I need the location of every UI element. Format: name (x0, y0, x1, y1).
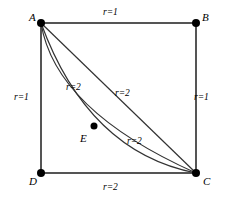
vertex-label-b: B (202, 12, 209, 23)
label-left-side: r=1 (14, 93, 29, 103)
vertex-label-d: D (29, 176, 37, 187)
vertex-label-c: C (203, 176, 210, 187)
geometry-figure: A B C D E r=1 r=1 r=1 r=2 r=2 r=2 r=2 (0, 0, 228, 202)
vertex-dot-b (192, 19, 200, 27)
vertex-label-e: E (80, 133, 87, 144)
label-top-side: r=1 (103, 8, 118, 18)
label-bottom-side: r=2 (103, 183, 118, 193)
vertex-label-a: A (29, 12, 36, 23)
vertex-dot-a (37, 19, 45, 27)
label-arc-upper-left: r=2 (66, 83, 81, 93)
label-diagonal: r=2 (115, 89, 130, 99)
vertex-dot-c (192, 169, 200, 177)
vertex-dot-d (37, 169, 45, 177)
vertex-dot-e (91, 123, 98, 130)
label-right-side: r=1 (194, 93, 209, 103)
label-arc-lower: r=2 (127, 137, 142, 147)
